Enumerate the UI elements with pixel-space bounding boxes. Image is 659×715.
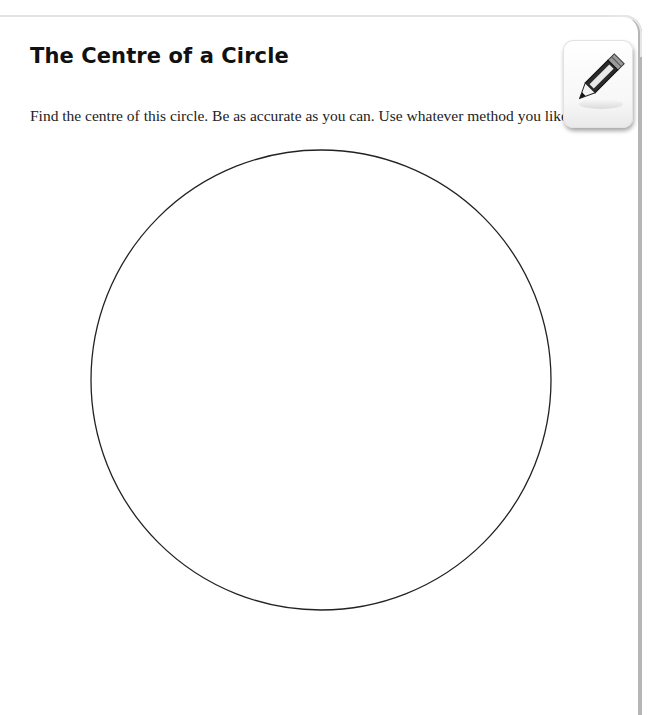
pencil-icon-box <box>563 40 633 128</box>
instructions-text: Find the centre of this circle. Be as ac… <box>30 107 572 125</box>
pencil-icon <box>571 52 625 114</box>
page-title: The Centre of a Circle <box>30 44 289 68</box>
